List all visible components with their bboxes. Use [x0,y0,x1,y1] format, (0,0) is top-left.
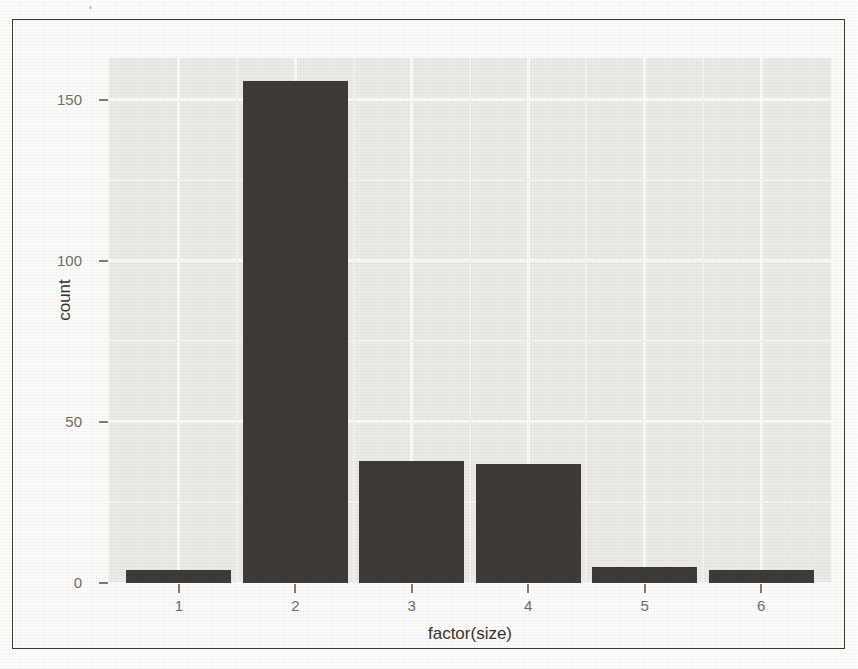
gridline-x-minor [469,58,471,583]
gridline-x-major [177,58,180,583]
x-tick-label: 6 [741,598,781,613]
y-tick-mark [99,99,108,101]
scan-artifact-speck [89,6,92,9]
x-tick-label: 4 [508,598,548,613]
plot-frame: 050100150 123456 factor(size) count [12,19,845,649]
x-tick-mark [527,584,529,593]
y-tick-label: 50 [22,414,82,429]
figure: 050100150 123456 factor(size) count [0,0,858,669]
plot-panel [109,58,831,583]
gridline-x-major [643,58,646,583]
gridline-x-major [760,58,763,583]
gridline-x-minor [353,58,355,583]
x-axis-title: factor(size) [109,624,831,644]
x-tick-mark [178,584,180,593]
y-tick-mark [99,421,108,423]
x-tick-label: 1 [159,598,199,613]
x-tick-mark [760,584,762,593]
y-tick-label: 0 [22,575,82,590]
x-tick-mark [411,584,413,593]
x-tick-label: 5 [625,598,665,613]
y-axis-title: count [55,230,75,370]
bar [359,461,464,583]
y-tick-mark [99,582,108,584]
x-tick-mark [294,584,296,593]
y-tick-mark [99,260,108,262]
bar [243,81,348,583]
bar [126,570,231,583]
y-tick-label: 150 [22,92,82,107]
gridline-x-minor [236,58,238,583]
bar [476,464,581,583]
bar [709,570,814,583]
gridline-x-minor [702,58,704,583]
x-tick-label: 3 [392,598,432,613]
x-tick-mark [644,584,646,593]
bar [592,567,697,583]
gridline-x-minor [585,58,587,583]
x-tick-label: 2 [275,598,315,613]
